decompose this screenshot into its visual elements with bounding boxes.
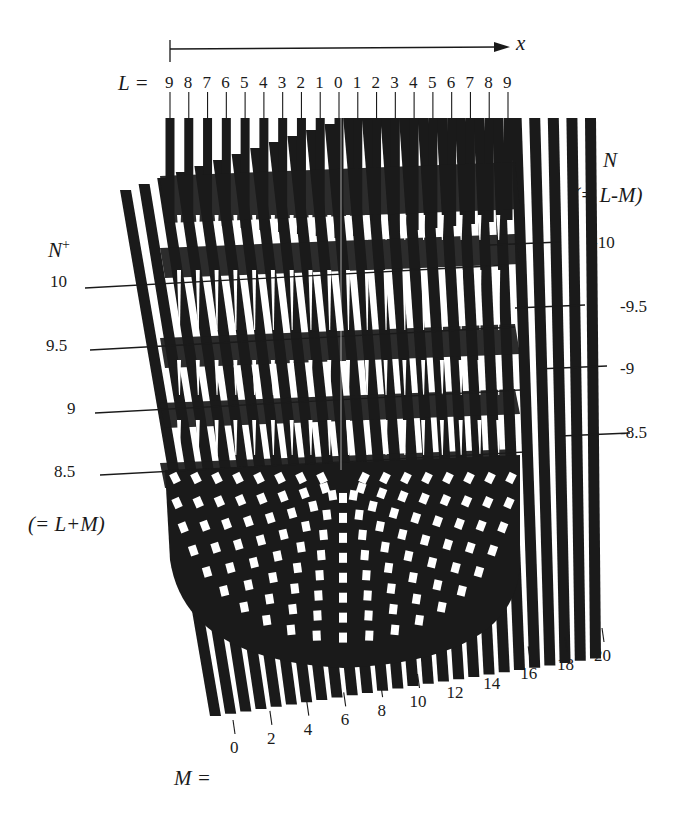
l-label: 5: [240, 74, 249, 91]
l-label: 5: [428, 74, 437, 91]
l-label: 1: [315, 74, 324, 91]
n-plus-tick-label: 10: [50, 273, 67, 290]
l-label: 1: [353, 74, 362, 91]
n-minus-tick-label: -10: [592, 234, 615, 251]
m-label: 16: [520, 665, 537, 682]
n-minus-tick-label: -9: [620, 360, 634, 377]
l-label: 4: [409, 74, 418, 91]
x-axis-label: x: [516, 33, 525, 54]
n-minus-tick-label: -9.5: [620, 298, 647, 315]
m-label: 12: [446, 684, 463, 701]
l-label: 9: [503, 74, 512, 91]
m-label: 6: [341, 711, 350, 728]
l-label: 2: [296, 74, 305, 91]
m-label: 20: [594, 647, 611, 664]
n-plus-letter: N: [48, 238, 62, 262]
m-label: 8: [378, 702, 387, 719]
l-label: 4: [259, 74, 268, 91]
m-label: 18: [557, 656, 574, 673]
l-label: 8: [484, 74, 493, 91]
l-label: 7: [203, 74, 212, 91]
moire-diagram: x L = 9876543210123456789 M = 0246810121…: [0, 0, 694, 817]
l-label: 0: [334, 74, 343, 91]
n-plus-tick-label: 9.5: [46, 337, 67, 354]
l-label: 3: [390, 74, 399, 91]
n-minus-title: N: [603, 150, 617, 171]
l-label: 2: [372, 74, 381, 91]
l-label: 6: [221, 74, 230, 91]
m-label: 4: [304, 721, 313, 738]
stripe-pattern: [0, 0, 694, 817]
l-label: 7: [465, 74, 474, 91]
n-minus-note: (= L-M): [573, 185, 643, 206]
m-label: 0: [230, 739, 239, 756]
m-prefix: M =: [174, 768, 211, 789]
l-prefix: L =: [118, 73, 149, 94]
l-tick-marks: [170, 92, 508, 118]
n-minus-tick-label: -8.5: [620, 424, 647, 441]
m-label: 14: [483, 675, 500, 692]
n-plus-note: (= L+M): [28, 514, 105, 535]
l-label: 9: [165, 74, 174, 91]
x-axis-arrow: [170, 40, 510, 62]
n-plus-title: N+: [48, 238, 70, 261]
m-label: 10: [410, 693, 427, 710]
n-plus-sup: +: [62, 237, 70, 252]
m-label: 2: [267, 730, 276, 747]
n-plus-tick-label: 8.5: [54, 463, 75, 480]
l-label: 6: [447, 74, 456, 91]
l-label: 3: [278, 74, 287, 91]
n-plus-tick-label: 9: [67, 400, 76, 417]
l-label: 8: [184, 74, 193, 91]
